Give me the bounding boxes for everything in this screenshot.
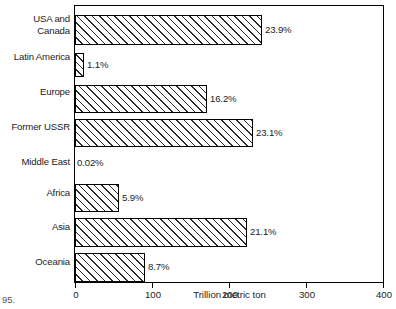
category-axis-labels: USA and Canada Latin America Europe Form… [0,5,70,283]
bar-value-oceania: 8.7% [148,262,169,272]
bar-oceania [75,253,145,282]
x-tick-100 [152,283,153,288]
category-label-africa: Africa [0,187,70,199]
bar-former-ussr [75,119,253,147]
caption-fragment: 95. [2,295,15,305]
x-tick-0 [75,283,76,288]
bars-layer: 23.9% 1.1% 16.2% 23.1% 0.02% 5.9% 21.1% … [75,5,384,283]
x-axis-title: Trillion metric ton [74,289,385,300]
category-label-former-ussr: Former USSR [0,121,70,133]
bar-value-latin-america: 1.1% [87,60,108,70]
category-label-oceania: Oceania [0,256,70,268]
x-tick-400 [383,283,384,288]
bar-chart-figure: USA and Canada Latin America Europe Form… [0,0,396,309]
bar-value-asia: 21.1% [250,227,276,237]
x-tick-300 [306,283,307,288]
bar-value-usa-and-canada: 23.9% [265,25,291,35]
category-label-middle-east: Middle East [0,156,70,168]
category-label-asia: Asia [0,221,70,233]
bar-value-europe: 16.2% [210,94,236,104]
bar-value-former-ussr: 23.1% [256,128,282,138]
bar-africa [75,184,119,212]
bar-latin-america [75,53,84,77]
bar-usa-and-canada [75,15,262,45]
bar-value-middle-east: 0.02% [77,158,103,168]
bar-europe [75,85,207,113]
bar-value-africa: 5.9% [122,193,143,203]
x-tick-200 [229,283,230,288]
category-label-europe: Europe [0,86,70,98]
category-label-latin-america: Latin America [0,51,70,63]
bar-asia [75,218,247,247]
category-label-usa-and-canada: USA and Canada [0,13,70,36]
